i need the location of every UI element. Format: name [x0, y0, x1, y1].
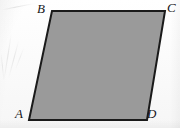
- vertex-label-c: C: [167, 1, 176, 14]
- vertex-label-a: A: [15, 107, 23, 120]
- vertex-label-d: D: [147, 107, 156, 120]
- figure-page: A B C D: [0, 0, 180, 128]
- vertex-label-b: B: [37, 2, 45, 15]
- parallelogram-shape: [29, 11, 165, 120]
